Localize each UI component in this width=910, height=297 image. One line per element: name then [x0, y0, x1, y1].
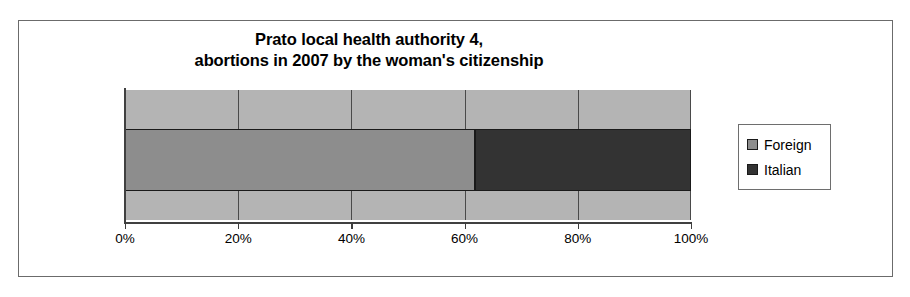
x-tick-label: 100%: [674, 231, 709, 246]
x-tick-mark: [238, 222, 239, 229]
legend-swatch-italian: [747, 164, 758, 175]
chart-title-line-1: Prato local health authority 4,: [19, 29, 719, 50]
legend-label-italian: Italian: [764, 162, 801, 178]
plot-area: [125, 90, 691, 220]
legend-item-italian[interactable]: Italian: [747, 157, 830, 182]
legend-label-foreign: Foreign: [764, 137, 811, 153]
x-tick-label: 60%: [451, 231, 478, 246]
chart-title: Prato local health authority 4, abortion…: [19, 29, 719, 71]
bar-segment-italian[interactable]: [475, 129, 691, 191]
x-tick-label: 40%: [338, 231, 365, 246]
x-tick-label: 80%: [564, 231, 591, 246]
x-tick-label: 20%: [225, 231, 252, 246]
y-axis-line: [124, 88, 126, 224]
chart-title-line-2: abortions in 2007 by the woman's citizen…: [19, 50, 719, 71]
x-axis-line: [124, 222, 692, 224]
x-tick-mark: [125, 222, 126, 229]
chart-legend: Foreign Italian: [738, 124, 831, 190]
stacked-bar: [125, 129, 691, 191]
bar-segment-foreign[interactable]: [125, 129, 475, 191]
x-tick-mark: [691, 222, 692, 229]
legend-item-foreign[interactable]: Foreign: [747, 132, 830, 157]
x-tick-mark: [351, 222, 352, 229]
x-tick-label: 0%: [115, 231, 135, 246]
legend-swatch-foreign: [747, 139, 758, 150]
x-tick-mark: [465, 222, 466, 229]
x-tick-mark: [578, 222, 579, 229]
chart-frame: Prato local health authority 4, abortion…: [18, 20, 893, 277]
